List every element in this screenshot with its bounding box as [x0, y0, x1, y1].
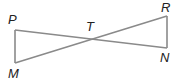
label-p: P — [8, 12, 17, 27]
label-r: R — [161, 0, 170, 15]
label-n: N — [160, 50, 170, 65]
label-t: T — [86, 19, 95, 34]
geometry-diagram: P M T R N — [0, 0, 180, 84]
label-m: M — [8, 66, 19, 81]
